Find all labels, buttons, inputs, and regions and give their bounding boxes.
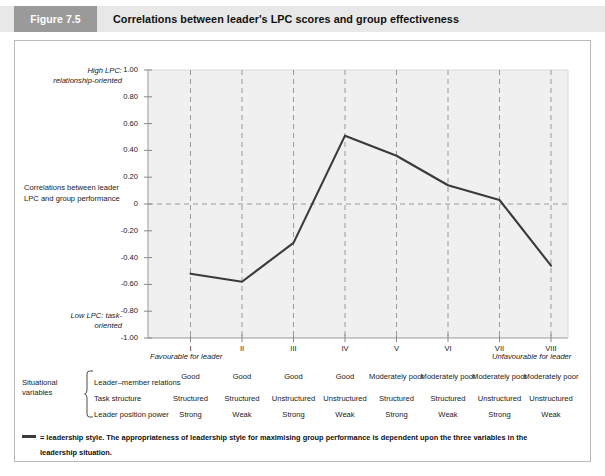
y-tick-label: -1.00 [104,333,138,342]
situational-cell: Moderately poor [420,372,476,382]
y-tick-label: -0.80 [104,306,138,315]
situational-variables-label: Situational variables [22,378,84,399]
situational-cell: Strong [472,410,528,420]
situational-cell: Good [163,372,219,382]
situational-cell: Strong [163,410,219,420]
y-tick-label: 0 [104,199,138,208]
footnote-text: = leadership style. The appropriateness … [40,433,527,442]
situational-cell: Structured [420,394,476,404]
y-tick-label: 0.60 [104,119,138,128]
y-tick-label: -0.20 [104,226,138,235]
y-tick-label: 0.40 [104,145,138,154]
situational-cell: Weak [214,410,270,420]
situational-cell: Structured [163,394,219,404]
y-tick-label: 1.00 [104,65,138,74]
footnote-line-1: = leadership style. The appropriateness … [22,432,582,443]
y-tick-label: -0.40 [104,253,138,262]
situational-cell: Weak [523,410,579,420]
situational-cell: Good [266,372,322,382]
situational-cell: Unstructured [266,394,322,404]
y-tick-label: 0.80 [104,92,138,101]
situational-cell: Strong [266,410,322,420]
figure-number-tag: Figure 7.5 [14,6,97,32]
x-tick-label: V [377,344,417,353]
situational-cell: Structured [369,394,425,404]
situational-cell: Good [214,372,270,382]
favourable-for-leader-note: Favourable for leader [150,352,222,361]
situational-cell: Unstructured [472,394,528,404]
situational-cell: Structured [214,394,270,404]
situational-cell: Unstructured [317,394,373,404]
situational-cell: Weak [420,410,476,420]
situational-cell: Strong [369,410,425,420]
x-tick-label: VI [428,344,468,353]
y-tick-label: -0.60 [104,279,138,288]
legend-line-swatch-icon [22,435,36,438]
x-tick-label: IV [325,344,365,353]
situational-cell: Moderately poor [472,372,528,382]
situational-cell: Moderately poor [523,372,579,382]
curly-brace [84,370,94,418]
situational-cell: Weak [317,410,373,420]
x-tick-label: II [222,344,262,353]
situational-cell: Moderately poor [369,372,425,382]
y-tick-label: 0.20 [104,172,138,181]
figure-title: Correlations between leader's LPC scores… [113,6,459,32]
situational-cell: Unstructured [523,394,579,404]
footnote-line-2: leadership situation. [40,448,112,457]
situational-cell: Good [317,372,373,382]
unfavourable-for-leader-note: Unfavourable for leader [492,352,571,361]
x-tick-label: III [274,344,314,353]
